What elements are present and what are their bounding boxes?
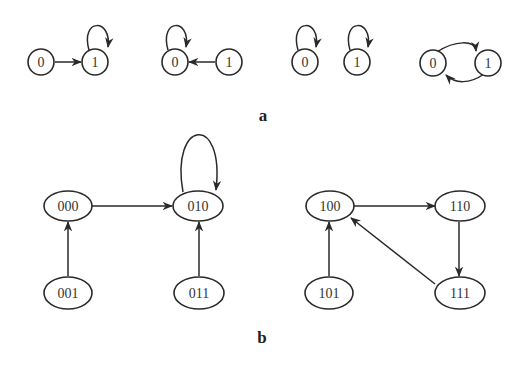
self-loop-0 [166,26,186,50]
panel-b-left-component: 000 010 001 011 [44,135,224,309]
node-label: 100 [320,199,341,214]
self-loop-010 [181,135,217,192]
panel-a-graph-1: 0 1 [28,26,108,75]
node-label: 111 [450,286,470,301]
node-label: 000 [58,199,79,214]
panel-a-graph-2: 0 1 [162,26,242,75]
node-label: 1 [354,55,361,70]
node-label: 1 [92,55,99,70]
panel-a-caption: a [259,106,268,125]
node-label: 0 [302,55,309,70]
node-label: 0 [38,55,45,70]
self-loop-0 [296,26,316,50]
node-label: 101 [319,286,340,301]
node-label: 011 [189,286,209,301]
self-loop-1 [87,26,108,50]
panel-a-graph-5: 0 1 [420,43,501,82]
node-label: 110 [450,199,470,214]
edge-1-to-0 [446,74,484,82]
state-transition-figure: 0 1 0 1 0 1 0 1 a 000 [0,0,525,365]
panel-b-caption: b [257,328,266,347]
edge-0-to-1 [437,43,476,52]
node-label: 0 [430,56,437,71]
node-label: 1 [485,56,492,71]
figure-svg: 0 1 0 1 0 1 0 1 a 000 [0,0,525,365]
node-label: 001 [58,286,79,301]
node-label: 010 [188,199,209,214]
edge-111-to-100 [351,218,435,284]
panel-a-graph-4: 1 [344,26,370,75]
self-loop-1 [348,26,368,50]
node-label: 0 [172,55,179,70]
panel-a-graph-3: 0 [292,26,318,75]
panel-b-right-component: 100 110 101 111 [305,191,485,309]
node-label: 1 [226,55,233,70]
